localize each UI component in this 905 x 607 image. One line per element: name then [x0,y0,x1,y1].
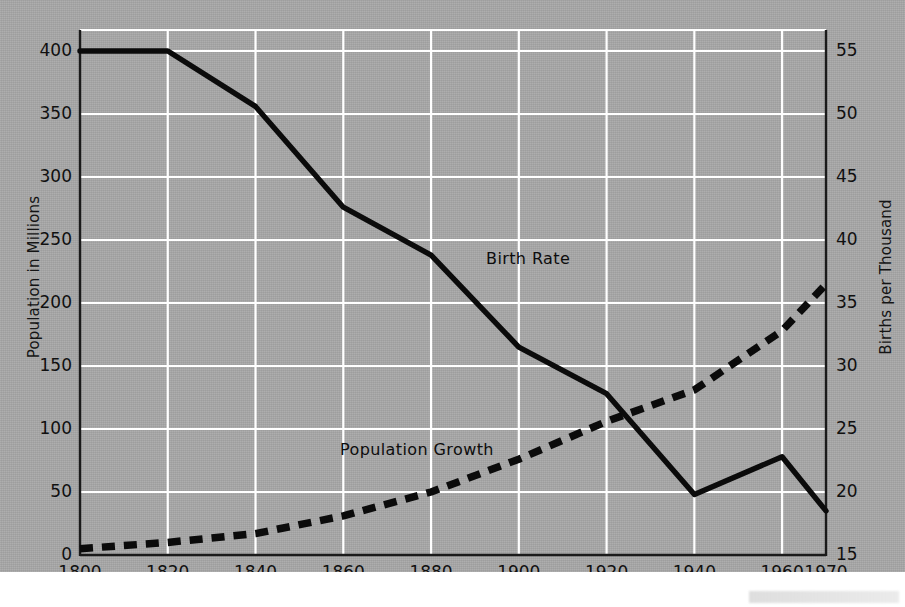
y-tick-right-20: 20 [836,481,882,501]
y-tick-right-55: 55 [836,40,882,60]
y-tick-left-50: 50 [14,481,72,501]
y-tick-left-400: 400 [14,40,72,60]
y-tick-left-100: 100 [14,418,72,438]
scan-smudge [749,591,899,603]
y-tick-right-45: 45 [836,166,882,186]
y-tick-right-40: 40 [836,229,882,249]
annotation-birth-rate: Birth Rate [486,249,570,268]
chart-canvas [0,0,905,607]
series-line-population-growth [80,284,826,549]
y-tick-left-300: 300 [14,166,72,186]
annotation-population-growth: Population Growth [340,440,494,459]
y-tick-right-50: 50 [836,103,882,123]
y-tick-left-150: 150 [14,355,72,375]
y-tick-left-200: 200 [14,292,72,312]
y-tick-right-30: 30 [836,355,882,375]
y-tick-right-35: 35 [836,292,882,312]
y-tick-left-350: 350 [14,103,72,123]
y-tick-right-15: 15 [836,544,882,564]
chart-figure: Population in Millions Births per Thousa… [0,0,905,607]
horizontal-gridlines [80,30,826,492]
y-tick-right-25: 25 [836,418,882,438]
axis-spines [80,30,826,556]
y-tick-left-250: 250 [14,229,72,249]
y-tick-left-0: 0 [14,544,72,564]
page-margin-strip [0,572,905,607]
